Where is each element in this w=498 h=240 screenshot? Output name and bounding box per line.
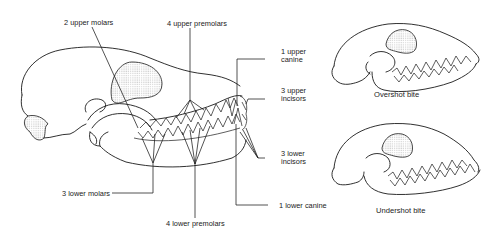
label-upper-incisors-2: incisors: [281, 94, 306, 103]
main-skull: [21, 47, 247, 167]
label-lower-canine: 1 lower canine: [279, 201, 327, 210]
dentition-diagram: 2 upper molars 4 upper premolars 1 upper…: [0, 0, 498, 240]
label-upper-molars: 2 upper molars: [64, 18, 114, 27]
caption-overshot: Overshot bite: [374, 90, 419, 99]
label-lower-molars: 3 lower molars: [62, 189, 110, 198]
ear-bulla: [85, 99, 106, 112]
undershot-skull: Undershot bite: [332, 123, 480, 215]
zygomatic-arch-lower: [92, 114, 152, 130]
eye-orbit: [111, 62, 162, 103]
label-lower-premolars: 4 lower premolars: [166, 219, 225, 228]
overshot-skull: Overshot bite: [332, 23, 479, 99]
gum-line-lower: [134, 128, 240, 141]
incisors: [240, 96, 247, 130]
mandible: [89, 132, 246, 167]
label-upper-canine-2: canine: [281, 55, 303, 64]
temporal-ridge: [44, 124, 86, 138]
label-upper-premolars: 4 upper premolars: [167, 19, 227, 28]
occipital-condyle: [24, 115, 48, 140]
lower-teeth: [138, 114, 240, 138]
cranium-back: [21, 95, 28, 116]
label-lower-incisors-2: incisors: [281, 157, 306, 166]
caption-undershot: Undershot bite: [376, 206, 425, 215]
zygomatic-arch: [88, 104, 156, 120]
